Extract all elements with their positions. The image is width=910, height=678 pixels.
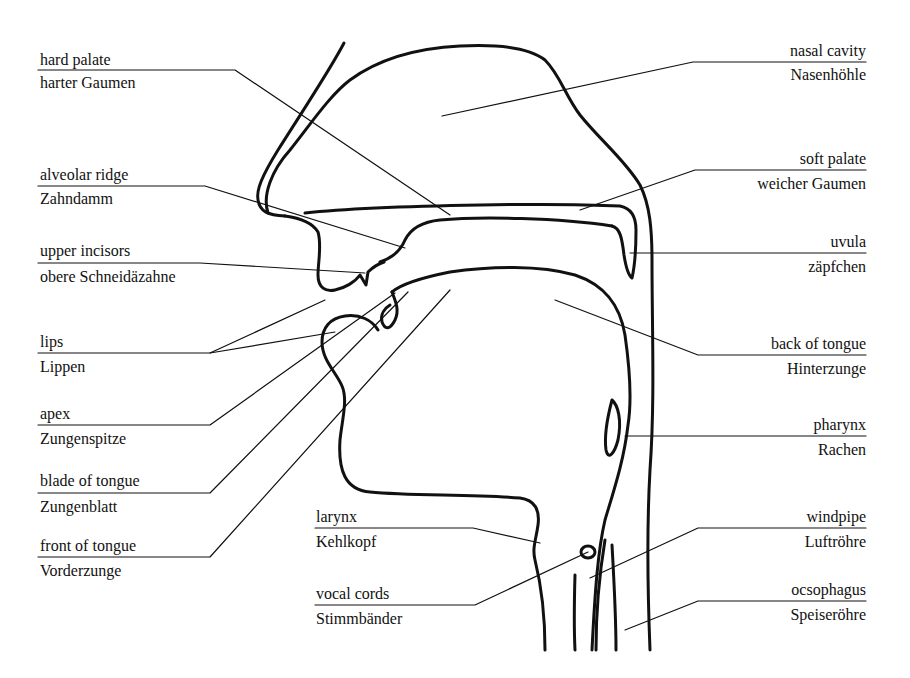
label-oesophagus-en: ocsophagus [791,581,866,599]
label-hard-palate-de: harter Gaumen [40,74,136,92]
label-apex-en: apex [40,405,70,423]
label-alveolar-ridge-en: alveolar ridge [40,166,128,184]
label-blade-of-tongue-en: blade of tongue [40,472,140,490]
label-front-of-tongue-en: front of tongue [40,537,136,555]
label-uvula-de: zäpfchen [808,258,866,276]
label-apex-de: Zungenspitze [40,430,126,448]
label-upper-incisors-de: obere Schneidäzahne [40,268,175,286]
label-alveolar-ridge-de: Zahndamm [40,190,113,208]
label-vocal-cords-de: Stimmbänder [316,610,402,628]
label-soft-palate-en: soft palate [800,150,866,168]
label-soft-palate-de: weicher Gaumen [757,175,866,193]
label-upper-incisors-en: upper incisors [40,242,130,260]
label-nasal-cavity-en: nasal cavity [790,42,866,60]
label-larynx-de: Kehlkopf [316,533,376,551]
label-hard-palate-en: hard palate [40,51,111,69]
label-back-of-tongue-de: Hinterzunge [787,360,866,378]
label-nasal-cavity-de: Nasenhöhle [790,66,866,84]
label-vocal-cords-en: vocal cords [316,585,389,603]
label-lips-en: lips [40,333,63,351]
label-pharynx-en: pharynx [814,416,866,434]
label-lips-de: Lippen [40,358,85,376]
leader-lines [38,62,866,630]
label-windpipe-en: windpipe [806,508,866,526]
vocal-tract-diagram: hard palate harter Gaumen alveolar ridge… [0,0,910,678]
outline-strokes [258,43,653,650]
label-uvula-en: uvula [830,233,866,251]
label-front-of-tongue-de: Vorderzunge [40,562,121,580]
label-blade-of-tongue-de: Zungenblatt [40,498,117,516]
label-pharynx-de: Rachen [818,441,866,459]
label-windpipe-de: Luftröhre [805,533,866,551]
label-larynx-en: larynx [316,508,357,526]
label-oesophagus-de: Speiseröhre [790,606,866,624]
label-back-of-tongue-en: back of tongue [771,335,866,353]
